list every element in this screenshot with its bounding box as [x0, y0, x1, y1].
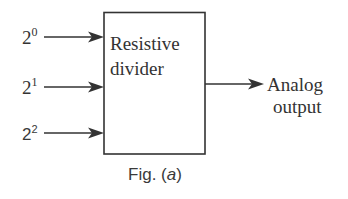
input-label: 22	[22, 123, 38, 144]
input-base: 2	[22, 77, 32, 98]
resistive-divider-diagram: Resistive divider 20 21 22 Analog output…	[0, 0, 348, 199]
output-label-line1: Analog	[267, 74, 323, 95]
output-arrow: Analog output	[205, 74, 323, 117]
input-label: 20	[22, 25, 38, 48]
caption-prefix: Fig. (	[128, 165, 167, 184]
input-exponent: 1	[32, 75, 38, 89]
input-2-pow-1: 21	[22, 75, 104, 98]
caption-suffix: )	[176, 165, 182, 184]
input-exponent: 2	[31, 123, 37, 135]
figure-caption: Fig. (a)	[128, 165, 182, 184]
block-label-line1: Resistive	[110, 33, 180, 54]
block-label-line2: divider	[110, 58, 164, 79]
input-exponent: 0	[32, 25, 38, 39]
caption-letter: a	[167, 165, 176, 184]
input-base: 2	[22, 27, 32, 48]
output-label-line2: output	[273, 96, 322, 117]
input-base: 2	[22, 125, 31, 144]
input-2-pow-0: 20	[22, 25, 104, 48]
input-2-pow-2: 22	[22, 123, 104, 144]
input-label: 21	[22, 75, 38, 98]
resistive-divider-block: Resistive divider	[104, 13, 205, 155]
